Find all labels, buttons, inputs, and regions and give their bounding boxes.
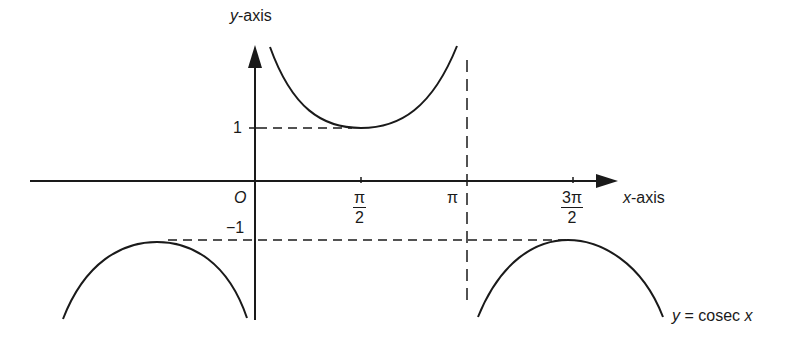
curve-equation-label: y = cosec x [672,308,752,324]
pi-half-numerator: π [353,190,366,208]
three-pi-half-numerator: 3π [561,190,583,208]
curve-lower-right [478,240,663,317]
curve-lower-left [63,242,247,319]
curve-eq-text: = cosec [680,307,744,324]
curve-eq-x: x [744,307,752,324]
x-axis-label: x-axis [623,190,665,206]
curve-eq-y: y [672,307,680,324]
chart-canvas [0,0,798,342]
x-axis-arrow-icon [596,174,618,188]
x-tick-label-pi: π [447,190,458,206]
y-tick-label-minus-one: −1 [226,220,244,236]
origin-label: O [234,190,246,206]
y-tick-label-one: 1 [233,120,242,136]
y-axis-arrow-icon [248,45,262,68]
three-pi-half-denominator: 2 [568,208,577,226]
curve-upper [270,46,457,128]
x-axis-label-var: x [623,189,631,206]
x-axis-label-suffix: -axis [631,189,665,206]
x-tick-label-pi-half: π 2 [353,190,366,226]
y-axis-label-suffix: -axis [238,7,272,24]
y-axis-label-var: y [230,7,238,24]
y-axis-label: y-axis [230,8,272,24]
pi-half-denominator: 2 [355,208,364,226]
x-tick-label-three-pi-half: 3π 2 [561,190,583,226]
